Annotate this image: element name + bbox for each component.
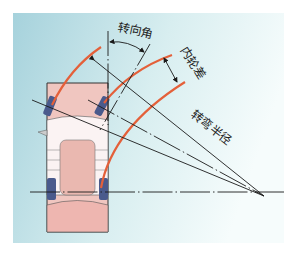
turning-diagram: 转向角 内轮差 转弯半径 [0,0,296,256]
rear-left-wheel [47,178,56,200]
